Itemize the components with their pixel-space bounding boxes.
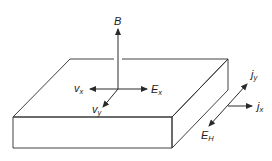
label-vy: vy <box>92 103 103 117</box>
slab-right-face <box>172 59 228 148</box>
vy-arrow <box>103 89 118 107</box>
hall-effect-diagram: B Ex vx vy jy jx EH <box>0 0 272 161</box>
label-jx: jx <box>255 100 263 114</box>
label-b: B <box>114 15 121 27</box>
slab-front-face <box>13 117 172 148</box>
label-jy: jy <box>249 68 258 82</box>
label-vx: vx <box>74 82 84 96</box>
slab-top-face <box>13 59 228 117</box>
label-eh: EH <box>201 129 214 143</box>
slab <box>13 59 228 148</box>
label-ex: Ex <box>151 83 162 97</box>
diagram-canvas: B Ex vx vy jy jx EH <box>0 0 272 161</box>
